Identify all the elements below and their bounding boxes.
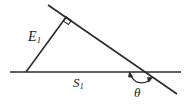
slant-line <box>48 5 177 94</box>
label-S1-symbol: S <box>73 75 80 90</box>
label-S1-subscript: 1 <box>80 82 84 91</box>
geometry-figure: E1 S1 θ <box>0 0 186 105</box>
arc-arrowhead-end-icon <box>147 77 153 82</box>
label-E1-subscript: 1 <box>37 35 41 45</box>
label-E1-symbol: E <box>28 29 37 44</box>
figure-canvas <box>0 0 186 105</box>
label-theta: θ <box>134 86 140 99</box>
label-E1: E1 <box>28 30 41 45</box>
label-S1: S1 <box>73 76 84 91</box>
